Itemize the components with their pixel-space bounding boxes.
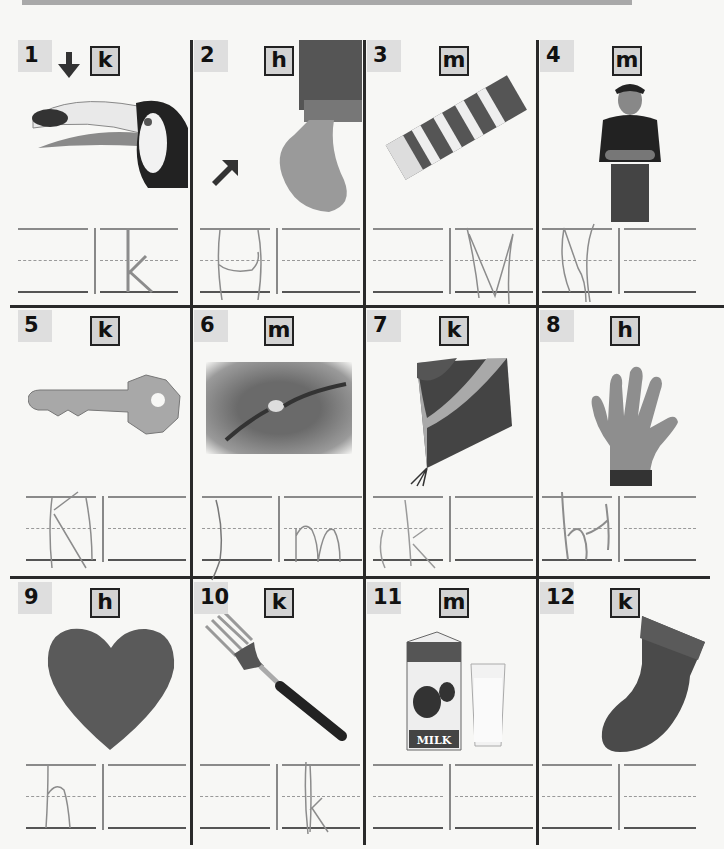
tracing-area [373, 496, 535, 562]
item-number: 1 [18, 40, 52, 72]
item-number: 5 [18, 310, 52, 342]
item-6: 6 m [194, 310, 362, 572]
writing-box-2[interactable] [624, 764, 696, 830]
writing-box-2[interactable] [455, 228, 533, 294]
fork-picture [204, 614, 354, 744]
tracing-area [542, 228, 708, 294]
item-3: 3 m [367, 40, 535, 302]
item-number: 4 [540, 40, 574, 72]
writing-box-1[interactable] [542, 764, 612, 830]
row-divider-2 [10, 576, 710, 579]
swimmer-picture [206, 362, 352, 454]
tracing-area [200, 764, 362, 830]
item-number: 12 [540, 582, 574, 614]
writing-box-2[interactable] [455, 764, 533, 830]
writing-box-1[interactable] [542, 496, 612, 562]
writing-box-1[interactable] [202, 496, 272, 562]
writing-box-2[interactable] [282, 228, 360, 294]
item-11: 11 m MILK [367, 582, 535, 844]
writing-box-2[interactable] [282, 764, 360, 830]
writing-box-2[interactable] [455, 496, 533, 562]
pencil-h [542, 490, 612, 570]
row-divider-1 [10, 305, 724, 308]
pencil-h [26, 758, 96, 834]
writing-box-1[interactable] [200, 764, 270, 830]
item-number: 8 [540, 310, 574, 342]
top-banner [22, 0, 632, 5]
item-number: 10 [194, 582, 228, 614]
item-8: 8 h [540, 310, 710, 572]
toucan-picture [28, 88, 188, 188]
writing-box-2[interactable] [100, 228, 178, 294]
writing-box-1[interactable] [373, 496, 443, 562]
target-letter: m [612, 46, 642, 76]
foot-picture [234, 40, 362, 220]
writing-box-2[interactable] [624, 496, 696, 562]
tracing-area [18, 228, 178, 294]
item-7: 7 k [367, 310, 535, 572]
item-number: 6 [194, 310, 228, 342]
man-picture [595, 82, 665, 222]
pencil-k [373, 490, 443, 570]
writing-box-1[interactable] [26, 764, 96, 830]
writing-box-1[interactable] [542, 228, 612, 294]
tracing-area [26, 496, 186, 562]
down-arrow-icon [58, 52, 80, 78]
item-10: 10 k [194, 582, 362, 844]
target-letter: k [90, 316, 120, 346]
pencil-m [455, 222, 533, 306]
tracing-area [373, 228, 535, 294]
tracing-area [542, 764, 708, 830]
kite-picture [397, 358, 517, 488]
item-5: 5 k [18, 310, 188, 572]
col-divider-1 [190, 40, 193, 845]
heart-picture [46, 626, 176, 751]
pencil-k [100, 222, 178, 296]
target-letter: m [439, 588, 469, 618]
pencil-k [26, 490, 96, 570]
tracing-area [542, 496, 708, 562]
item-9: 9 h [18, 582, 188, 844]
target-letter: m [439, 46, 469, 76]
col-divider-3 [536, 40, 539, 845]
col-divider-2 [363, 40, 366, 845]
writing-box-2[interactable] [108, 764, 186, 830]
target-letter: h [610, 316, 640, 346]
item-12: 12 k [540, 582, 710, 844]
pencil-k [282, 758, 360, 838]
item-4: 4 m [540, 40, 710, 302]
writing-box-1[interactable] [373, 764, 443, 830]
tracing-area [373, 764, 535, 830]
item-1: 1 k [18, 40, 188, 302]
target-letter: m [264, 316, 294, 346]
pencil-m [284, 490, 362, 570]
hand-picture [590, 366, 680, 486]
target-letter: k [90, 46, 120, 76]
writing-box-1[interactable] [18, 228, 88, 294]
item-number: 3 [367, 40, 401, 72]
key-picture [28, 360, 183, 440]
item-2: 2 h [194, 40, 362, 302]
writing-box-2[interactable] [624, 228, 696, 294]
milk-picture: MILK [397, 622, 517, 752]
item-number: 9 [18, 582, 52, 614]
writing-box-1[interactable] [26, 496, 96, 562]
item-number: 7 [367, 310, 401, 342]
item-number: 11 [367, 582, 401, 614]
arrow-up-right-icon [210, 160, 238, 188]
tracing-area [26, 764, 186, 830]
item-number: 2 [194, 40, 228, 72]
pencil-m [542, 222, 612, 306]
writing-box-1[interactable] [200, 228, 270, 294]
pencil-h [200, 222, 270, 302]
writing-box-2[interactable] [108, 496, 186, 562]
writing-box-1[interactable] [373, 228, 443, 294]
gum-picture [377, 75, 527, 185]
carton-label: MILK [417, 734, 452, 747]
sock-picture [570, 614, 710, 754]
target-letter: k [439, 316, 469, 346]
tracing-area [202, 496, 362, 562]
writing-box-2[interactable] [284, 496, 362, 562]
target-letter: h [90, 588, 120, 618]
pencil-stroke [202, 490, 272, 580]
